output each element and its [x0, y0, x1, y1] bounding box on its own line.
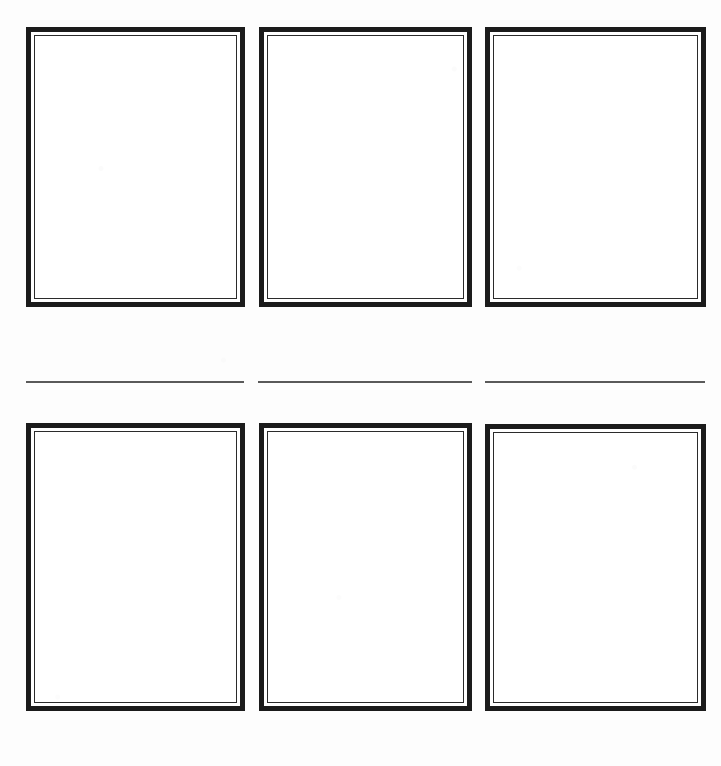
frame-inner-border-r2c2	[267, 431, 464, 703]
row-separator-rule-column-1	[26, 381, 244, 383]
frame-card-r1c3[interactable]	[485, 27, 706, 307]
frame-content-r1c2	[268, 36, 463, 298]
frame-card-r2c1[interactable]	[26, 423, 245, 711]
frame-inner-border-r2c1	[34, 431, 237, 703]
frame-inner-border-r1c3	[493, 35, 698, 299]
frame-inner-border-r2c3	[493, 432, 698, 703]
row-separator-rule-column-3	[485, 381, 705, 383]
frame-card-r1c2[interactable]	[259, 27, 472, 307]
frame-inner-border-r1c1	[34, 35, 237, 299]
frame-content-r1c1	[35, 36, 236, 298]
row-separator-rule-column-2	[258, 381, 472, 383]
sheet-canvas	[0, 0, 721, 766]
frame-content-r2c3	[494, 433, 697, 702]
frame-card-r2c3[interactable]	[485, 424, 706, 711]
frame-content-r1c3	[494, 36, 697, 298]
frame-card-r2c2[interactable]	[259, 423, 472, 711]
frame-content-r2c2	[268, 432, 463, 702]
frame-card-r1c1[interactable]	[26, 27, 245, 307]
frame-inner-border-r1c2	[267, 35, 464, 299]
frame-content-r2c1	[35, 432, 236, 702]
